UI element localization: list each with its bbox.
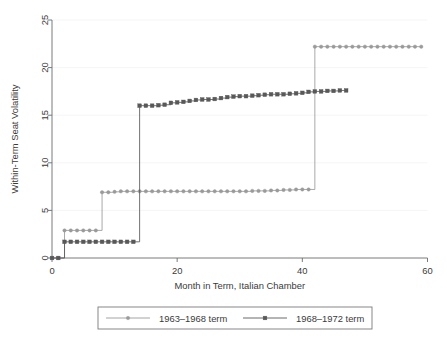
data-point-marker xyxy=(169,190,173,194)
data-point-marker xyxy=(275,92,279,96)
data-point-marker xyxy=(300,91,304,95)
data-point-marker xyxy=(313,45,317,49)
data-point-marker xyxy=(363,45,367,49)
data-point-marker xyxy=(263,189,267,193)
data-point-marker xyxy=(319,45,323,49)
y-axis-ticks: 0510152025 xyxy=(39,15,53,261)
data-point-marker xyxy=(107,191,111,195)
data-point-marker xyxy=(394,45,398,49)
data-point-marker xyxy=(263,93,267,97)
data-point-marker xyxy=(157,190,161,194)
data-point-marker xyxy=(163,103,167,107)
data-point-marker xyxy=(332,89,336,93)
legend-marker-swatch xyxy=(126,316,130,320)
data-point-marker xyxy=(251,189,255,193)
data-point-marker xyxy=(200,190,204,194)
data-point-marker xyxy=(69,240,73,244)
data-point-marker xyxy=(338,45,342,49)
data-point-marker xyxy=(207,98,211,102)
data-point-marker xyxy=(225,190,229,194)
data-point-marker xyxy=(150,190,154,194)
data-point-marker xyxy=(106,240,110,244)
y-tick-label: 20 xyxy=(39,62,50,72)
data-point-marker xyxy=(357,45,361,49)
data-point-marker xyxy=(188,99,192,103)
series-markers-1 xyxy=(50,45,423,260)
data-point-marker xyxy=(207,190,211,194)
data-point-marker xyxy=(288,92,292,96)
data-point-marker xyxy=(119,190,123,194)
data-point-marker xyxy=(419,45,423,49)
data-point-marker xyxy=(88,240,92,244)
data-point-marker xyxy=(401,45,405,49)
data-point-marker xyxy=(250,94,254,98)
data-point-marker xyxy=(319,90,323,94)
data-point-marker xyxy=(232,95,236,99)
data-series xyxy=(50,45,423,260)
data-point-marker xyxy=(232,190,236,194)
x-tick-label: 40 xyxy=(297,265,307,276)
data-point-marker xyxy=(157,103,161,107)
legend-entry-label: 1963–1968 term xyxy=(159,313,227,324)
chart-figure: 0510152025 0204060 Within-Term Seat Vola… xyxy=(0,0,447,339)
data-point-marker xyxy=(244,94,248,98)
y-tick-label: 25 xyxy=(39,15,50,25)
data-point-marker xyxy=(326,89,330,93)
data-point-marker xyxy=(413,45,417,49)
data-point-marker xyxy=(163,190,167,194)
x-tick-label: 20 xyxy=(172,265,182,276)
series-2 xyxy=(50,89,348,260)
data-point-marker xyxy=(257,189,261,193)
data-point-marker xyxy=(344,89,348,93)
data-point-marker xyxy=(100,191,104,195)
y-tick-label: 5 xyxy=(39,208,50,213)
data-point-marker xyxy=(344,45,348,49)
data-point-marker xyxy=(169,101,173,105)
data-point-marker xyxy=(194,98,198,102)
data-point-marker xyxy=(94,229,98,233)
data-point-marker xyxy=(119,240,123,244)
data-point-marker xyxy=(69,229,73,233)
data-point-marker xyxy=(332,45,336,49)
data-point-marker xyxy=(182,100,186,104)
data-point-marker xyxy=(94,240,98,244)
x-axis-ticks: 0204060 xyxy=(49,258,432,276)
data-point-marker xyxy=(307,188,311,192)
y-axis-title-text: Within-Term Seat Volatility xyxy=(9,84,20,193)
data-point-marker xyxy=(63,240,67,244)
data-point-marker xyxy=(294,188,298,192)
data-point-marker xyxy=(132,190,136,194)
data-point-marker xyxy=(175,190,179,194)
x-axis-title: Month in Term, Italian Chamber xyxy=(174,280,305,291)
data-point-marker xyxy=(182,190,186,194)
data-point-marker xyxy=(313,90,317,94)
data-point-marker xyxy=(369,45,373,49)
y-tick-label: 15 xyxy=(39,110,50,120)
data-point-marker xyxy=(125,190,129,194)
x-axis-title-text: Month in Term, Italian Chamber xyxy=(174,280,305,291)
series-markers-2 xyxy=(50,89,348,260)
data-point-marker xyxy=(294,91,298,95)
data-point-marker xyxy=(125,240,129,244)
data-point-marker xyxy=(376,45,380,49)
x-tick-label: 60 xyxy=(422,265,432,276)
y-tick-label: 10 xyxy=(39,158,50,168)
data-point-marker xyxy=(75,240,79,244)
data-point-marker xyxy=(225,95,229,99)
data-point-marker xyxy=(338,89,342,93)
data-point-marker xyxy=(81,240,85,244)
data-point-marker xyxy=(56,256,60,260)
data-point-marker xyxy=(282,188,286,192)
data-point-marker xyxy=(194,190,198,194)
data-point-marker xyxy=(75,229,79,233)
data-point-marker xyxy=(200,98,204,102)
data-point-marker xyxy=(276,189,280,193)
chart-canvas: 0510152025 0204060 Within-Term Seat Vola… xyxy=(0,0,447,339)
data-point-marker xyxy=(150,104,154,108)
data-point-marker xyxy=(301,188,305,192)
data-point-marker xyxy=(82,229,86,233)
data-point-marker xyxy=(175,100,179,104)
data-point-marker xyxy=(213,97,217,101)
data-point-marker xyxy=(138,104,142,108)
data-point-marker xyxy=(244,190,248,194)
